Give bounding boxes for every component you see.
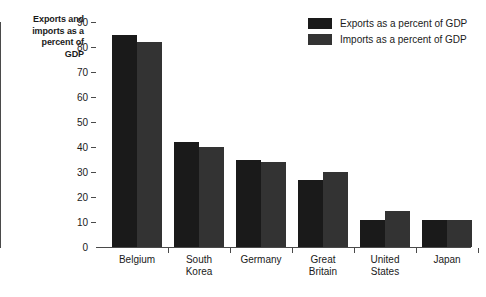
y-axis-tick-label: 50 bbox=[77, 117, 88, 128]
y-axis-tick-mark bbox=[91, 97, 96, 98]
x-axis-label-south-korea: SouthKorea bbox=[168, 254, 230, 278]
bar-exports-united-states bbox=[360, 220, 385, 248]
x-axis-label-line-2: Britain bbox=[292, 266, 354, 278]
y-axis-title-line-1: Exports and bbox=[6, 14, 84, 26]
x-axis-separator-tick bbox=[292, 248, 293, 253]
bar-group bbox=[292, 22, 354, 247]
bar-imports-germany bbox=[261, 162, 286, 247]
bar-imports-united-states bbox=[385, 211, 410, 247]
legend-label: Exports as a percent of GDP bbox=[340, 18, 467, 29]
legend-swatch-exports bbox=[308, 18, 332, 29]
plot-area: 0102030405060708090 bbox=[96, 22, 470, 247]
bar-exports-great-britain bbox=[298, 180, 323, 248]
x-axis-label-belgium: Belgium bbox=[106, 254, 168, 266]
bar-group-bars bbox=[292, 22, 354, 247]
bar-group-bars bbox=[354, 22, 416, 247]
y-axis-tick-label: 30 bbox=[77, 167, 88, 178]
x-axis-label-line-1: South bbox=[168, 254, 230, 266]
y-axis-title-line-2: imports as a bbox=[6, 26, 84, 38]
y-axis-tick-mark bbox=[91, 172, 96, 173]
y-axis-title-line-4: GDP bbox=[6, 49, 84, 61]
y-axis-tick-mark bbox=[91, 122, 96, 123]
bar-group bbox=[168, 22, 230, 247]
x-axis-label-line-1: Great bbox=[292, 254, 354, 266]
bar-group-bars bbox=[168, 22, 230, 247]
bar-imports-japan bbox=[447, 220, 472, 247]
x-axis-label-line-1: Germany bbox=[230, 254, 292, 266]
bar-exports-south-korea bbox=[174, 142, 199, 247]
y-axis-tick-mark bbox=[91, 47, 96, 48]
x-axis-label-united-states: UnitedStates bbox=[354, 254, 416, 278]
bar-chart: Exports and imports as a percent of GDP … bbox=[0, 0, 486, 297]
x-axis-label-great-britain: GreatBritain bbox=[292, 254, 354, 278]
bar-exports-japan bbox=[422, 220, 447, 248]
x-axis-separator-tick bbox=[416, 248, 417, 253]
bar-exports-germany bbox=[236, 160, 261, 248]
x-axis-label-line-1: Japan bbox=[416, 254, 478, 266]
chart-legend: Exports as a percent of GDPImports as a … bbox=[308, 18, 467, 50]
x-axis-separator-tick bbox=[354, 248, 355, 253]
x-axis-label-line-1: United bbox=[354, 254, 416, 266]
bar-imports-south-korea bbox=[199, 147, 224, 247]
y-axis-line bbox=[0, 22, 1, 248]
x-axis-line bbox=[96, 247, 471, 248]
legend-item-exports: Exports as a percent of GDP bbox=[308, 18, 467, 29]
y-axis-tick-label: 0 bbox=[82, 242, 88, 253]
y-axis-tick-label: 60 bbox=[77, 92, 88, 103]
y-axis-tick-mark bbox=[91, 22, 96, 23]
x-axis-label-germany: Germany bbox=[230, 254, 292, 266]
y-axis-tick-label: 70 bbox=[77, 67, 88, 78]
legend-swatch-imports bbox=[308, 34, 332, 45]
bar-group bbox=[106, 22, 168, 247]
y-axis-tick-mark bbox=[91, 197, 96, 198]
y-axis-tick-mark bbox=[91, 147, 96, 148]
y-axis-tick-mark bbox=[91, 72, 96, 73]
bar-exports-belgium bbox=[112, 35, 137, 248]
bar-imports-great-britain bbox=[323, 172, 348, 247]
x-axis-separator-tick bbox=[478, 248, 479, 253]
x-axis-label-japan: Japan bbox=[416, 254, 478, 266]
y-axis-tick-label: 10 bbox=[77, 217, 88, 228]
y-axis-tick-label: 90 bbox=[77, 17, 88, 28]
bar-group bbox=[354, 22, 416, 247]
x-axis-label-line-1: Belgium bbox=[106, 254, 168, 266]
y-axis-tick-label: 40 bbox=[77, 142, 88, 153]
x-axis-label-line-2: States bbox=[354, 266, 416, 278]
y-axis-tick-mark bbox=[91, 222, 96, 223]
legend-item-imports: Imports as a percent of GDP bbox=[308, 34, 467, 45]
bar-group bbox=[230, 22, 292, 247]
x-axis-separator-tick bbox=[230, 248, 231, 253]
legend-label: Imports as a percent of GDP bbox=[340, 34, 467, 45]
x-axis-separator-tick bbox=[168, 248, 169, 253]
y-axis-title: Exports and imports as a percent of GDP bbox=[6, 14, 84, 60]
bar-imports-belgium bbox=[137, 42, 162, 247]
y-axis-tick-label: 20 bbox=[77, 192, 88, 203]
x-axis-label-line-2: Korea bbox=[168, 266, 230, 278]
bar-group-bars bbox=[106, 22, 168, 247]
bar-group bbox=[416, 22, 478, 247]
bar-group-bars bbox=[230, 22, 292, 247]
bar-group-bars bbox=[416, 22, 478, 247]
y-axis-tick-label: 80 bbox=[77, 42, 88, 53]
y-axis-title-line-3: percent of bbox=[6, 37, 84, 49]
